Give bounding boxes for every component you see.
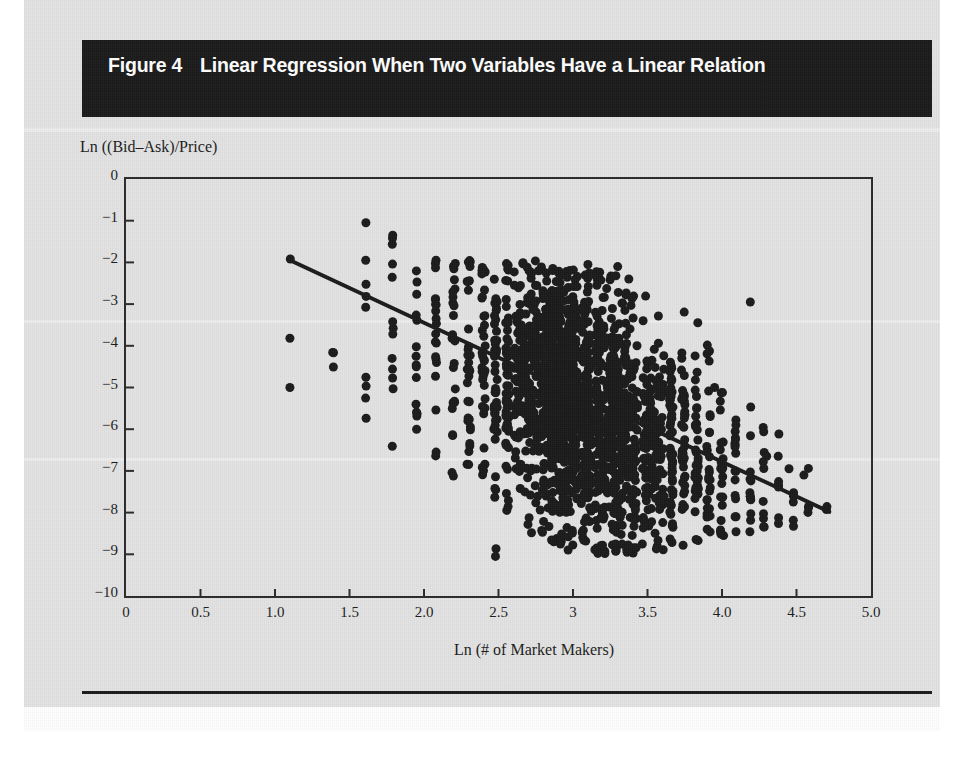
x-tick-label: 3.5	[618, 604, 678, 621]
x-tick-label: 1.5	[320, 604, 380, 621]
y-tick-label: −6	[78, 417, 118, 434]
y-tick-label: −8	[78, 501, 118, 518]
y-tick-label: −4	[78, 334, 118, 351]
x-tick-label: 1.0	[245, 604, 305, 621]
x-tick-label: 0.5	[171, 604, 231, 621]
y-tick-label: −10	[78, 584, 118, 601]
y-tick-label: −1	[78, 209, 118, 226]
x-axis-label-text: Ln (# of Market Makers)	[454, 641, 614, 658]
y-tick-label: −5	[78, 376, 118, 393]
x-tick-label: 5.0	[841, 604, 901, 621]
y-axis-tick-labels: 0−1−2−3−4−5−6−7−8−9−10	[66, 177, 118, 598]
x-axis-label: Ln (# of Market Makers)	[24, 641, 940, 659]
x-axis-tick-labels: 00.51.01.52.02.533.54.04.55.0	[124, 604, 873, 630]
scanned-page: Figure 4Linear Regression When Two Varia…	[24, 0, 940, 731]
plot-area	[124, 177, 873, 598]
y-tick-label: −9	[78, 542, 118, 559]
x-tick-label: 2.5	[469, 604, 529, 621]
x-tick-label: 2.0	[394, 604, 454, 621]
y-tick-label: −2	[78, 250, 118, 267]
y-tick-label: −7	[78, 459, 118, 476]
y-tick-label: 0	[78, 167, 118, 184]
footer-rule	[82, 691, 932, 694]
page-canvas: Figure 4Linear Regression When Two Varia…	[0, 0, 975, 760]
scatter-plot-svg	[126, 179, 871, 596]
x-tick-label: 0	[96, 604, 156, 621]
data-points-layer	[285, 218, 831, 561]
x-tick-label: 4.0	[692, 604, 752, 621]
y-tick-label: −3	[78, 292, 118, 309]
x-tick-label: 3	[543, 604, 603, 621]
figure-chart: Ln ((Bid–Ask)/Price) 0−1−2−3−4−5−6−7−8−9…	[24, 0, 940, 731]
x-tick-label: 4.5	[767, 604, 827, 621]
y-axis-label: Ln ((Bid–Ask)/Price)	[80, 138, 217, 156]
